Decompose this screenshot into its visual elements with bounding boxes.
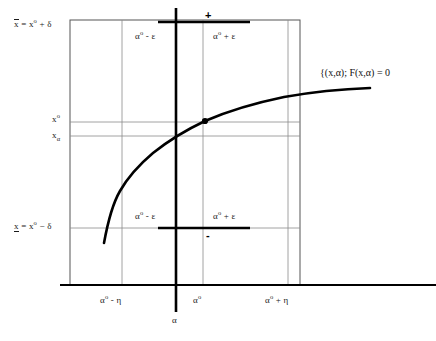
- curve-equation-label: {(x,α); F(x,α) = 0: [320, 68, 390, 78]
- label-x-alpha: xα: [52, 131, 60, 140]
- x-overbar-glyph: x: [14, 19, 19, 29]
- xtick-alpha-plus-eta: αo + η: [265, 296, 288, 305]
- implicit-function-diagram: x = xo + δ xo xα x = xo − δ αo - ε αo + …: [0, 0, 436, 341]
- plot-frame: [70, 20, 300, 285]
- curve-marker-point: [202, 118, 208, 124]
- label-x-upper-delta: x = xo + δ: [14, 19, 52, 29]
- xtick-alpha-minus-eta: αo - η: [100, 296, 121, 305]
- diagram-canvas: [0, 0, 436, 341]
- label-eps-top-left: αo - ε: [135, 32, 155, 41]
- minus-sign-label: -: [206, 230, 210, 241]
- label-x-lower-delta: x = xo − δ: [14, 222, 52, 232]
- label-x-upper-delta-rest: = xo + δ: [19, 19, 52, 29]
- label-eps-bottom-left: αo - ε: [135, 212, 155, 221]
- label-x-zero: xo: [52, 115, 60, 124]
- label-eps-top-right: αo + ε: [213, 32, 236, 41]
- xtick-alpha-zero: αo: [193, 296, 201, 305]
- alpha-axis-label: α: [172, 316, 177, 325]
- plus-sign-label: +: [205, 10, 211, 21]
- label-eps-bottom-right: αo + ε: [213, 212, 236, 221]
- x-underbar-glyph: x: [14, 222, 19, 232]
- label-x-lower-delta-rest: = xo − δ: [19, 221, 52, 231]
